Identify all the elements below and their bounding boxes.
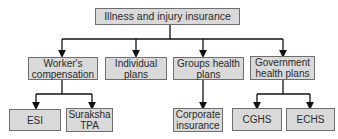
node-echs: ECHS <box>286 108 335 131</box>
node-label-line1: Government <box>255 57 310 68</box>
node-groups-health-plans: Groups health plans <box>173 57 244 80</box>
node-label-line1: Groups health <box>177 58 240 69</box>
node-esi: ESI <box>9 109 61 131</box>
node-suraksha-tpa: Suraksha TPA <box>66 108 113 132</box>
node-label-line1: Worker's <box>32 58 94 69</box>
node-workers-compensation: Worker's compensation <box>28 57 98 80</box>
node-label-line2: TPA <box>68 120 110 131</box>
node-label-line1: ESI <box>27 115 43 126</box>
node-label-line1: Corporate <box>176 109 220 120</box>
node-label-line2: plans <box>115 69 157 80</box>
node-cghs: CGHS <box>232 108 282 131</box>
node-label-line2: plans <box>177 69 240 80</box>
node-label-line2: insurance <box>176 120 220 131</box>
node-label-line1: CGHS <box>243 114 272 125</box>
node-corporate-insurance: Corporate insurance <box>173 108 223 132</box>
node-government-health-plans: Government health plans <box>250 56 315 80</box>
node-label-line2: health plans <box>255 68 310 79</box>
node-label-line1: Individual <box>115 58 157 69</box>
node-label-line2: compensation <box>32 69 94 80</box>
node-label-line1: Suraksha <box>68 109 110 120</box>
node-label-line1: ECHS <box>297 114 325 125</box>
node-root-illness-injury-insurance: Illness and injury insurance <box>95 8 240 25</box>
node-individual-plans: Individual plans <box>105 57 167 80</box>
node-label: Illness and injury insurance <box>104 11 231 22</box>
